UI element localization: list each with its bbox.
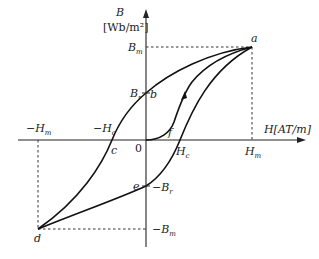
point-d-label: d [34,232,41,245]
origin-label: 0 [135,142,142,155]
neg-br-label: −Br [152,181,173,196]
hm-label: Hm [244,145,262,160]
hc-label: Hc [175,145,190,160]
h-axis-label: H[AT/m] [263,123,312,136]
b-axis-arrow-icon [143,9,149,18]
b-axis-label: B [115,6,124,19]
descending-branch [38,47,252,229]
bm-label: Bm [127,41,143,56]
point-b-label: b [150,88,157,101]
neg-hc-label: −Hc [93,122,116,137]
point-e-label: e [133,180,140,193]
hysteresis-loop [38,47,252,229]
br-label: Br [129,87,142,102]
neg-hm-label: −Hm [26,122,52,137]
point-c-label: c [111,144,117,157]
b-axis-unit: [Wb/m²] [103,21,148,34]
point-a-label: a [251,32,258,45]
neg-bm-label: −Bm [152,223,176,238]
point-f-label: f [167,126,174,139]
hysteresis-diagram: B [Wb/m²] H[AT/m] 0 Bm Br −Br −Bm Hm Hc … [0,0,319,259]
h-axis-arrow-icon [297,137,306,143]
